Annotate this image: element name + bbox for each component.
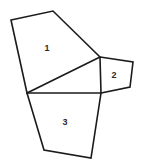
region-3-label: 3 — [62, 118, 67, 127]
region-2-label: 2 — [111, 71, 116, 80]
region-1-label: 1 — [44, 44, 49, 53]
polygon-diagram — [0, 0, 142, 166]
geometry-figure: 1 2 3 — [0, 0, 142, 166]
